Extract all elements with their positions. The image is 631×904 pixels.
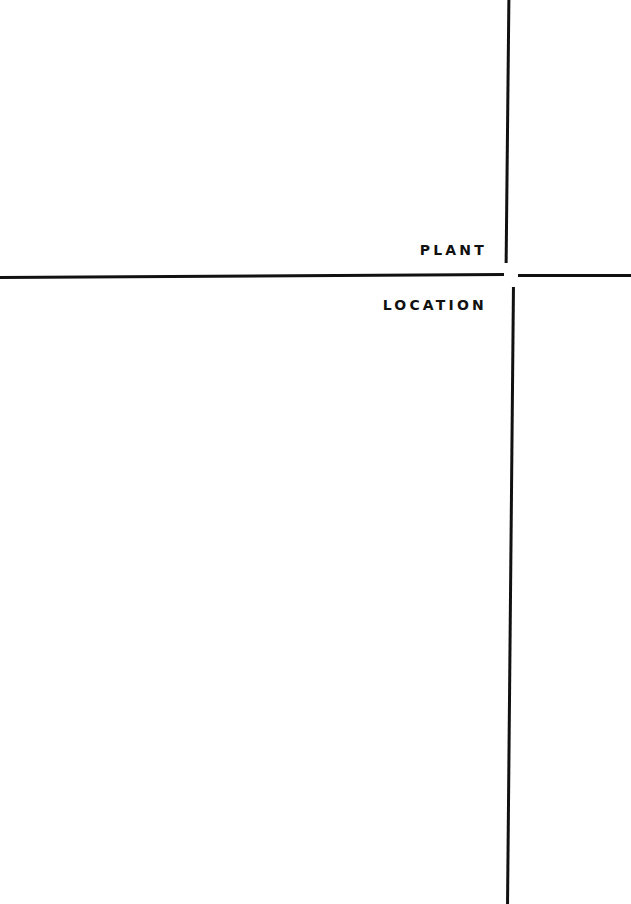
title-plant: PLANT xyxy=(420,242,487,258)
title-location: LOCATION xyxy=(383,297,487,313)
horizontal-rule-right xyxy=(518,274,631,277)
vertical-rule-bottom xyxy=(506,287,515,904)
horizontal-rule-left xyxy=(0,273,504,279)
vertical-rule-top xyxy=(505,0,511,263)
